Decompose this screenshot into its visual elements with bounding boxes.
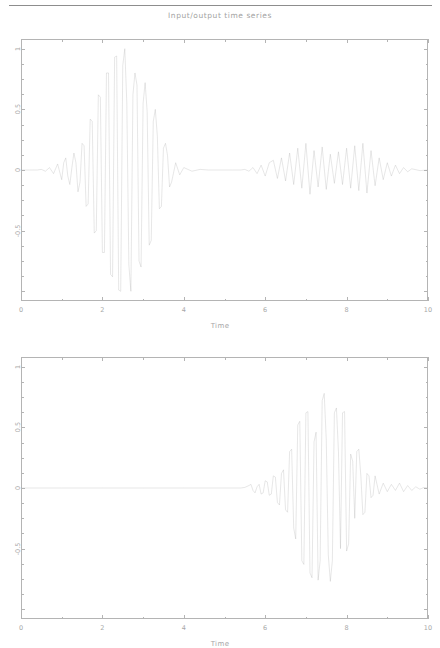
y-tick-major-right bbox=[424, 109, 428, 110]
x-tick-major bbox=[428, 615, 429, 619]
y-tick-minor bbox=[21, 579, 24, 580]
y-tick-label: 1 bbox=[14, 47, 22, 51]
y-tick-minor bbox=[21, 215, 24, 216]
y-tick-minor-right bbox=[426, 276, 429, 277]
x-tick-major bbox=[184, 297, 185, 301]
x-tick-minor-top bbox=[225, 357, 226, 360]
y-tick-label: -0.5 bbox=[14, 224, 22, 237]
x-tick-minor bbox=[225, 617, 226, 620]
y-tick-minor bbox=[21, 125, 24, 126]
x-tick-minor-top bbox=[306, 357, 307, 360]
y-tick-label: 0.5 bbox=[14, 104, 22, 114]
x-tick-major bbox=[428, 297, 429, 301]
y-tick-minor bbox=[21, 458, 24, 459]
x-tick-minor-top bbox=[387, 39, 388, 42]
y-tick-minor-right bbox=[426, 200, 429, 201]
y-tick-minor bbox=[21, 382, 24, 383]
x-tick-minor bbox=[225, 299, 226, 302]
y-tick-minor-right bbox=[426, 94, 429, 95]
y-tick-minor bbox=[21, 276, 24, 277]
y-tick-major-right bbox=[424, 49, 428, 50]
y-tick-major-right bbox=[424, 231, 428, 232]
input-panel: 024681010.50-0.5 Time bbox=[0, 30, 440, 330]
y-tick-minor-right bbox=[426, 140, 429, 141]
y-tick-minor-right bbox=[426, 155, 429, 156]
x-tick-label: 8 bbox=[345, 306, 349, 314]
output-trace bbox=[21, 393, 428, 581]
x-tick-label: 6 bbox=[263, 306, 267, 314]
y-tick-minor-right bbox=[426, 458, 429, 459]
y-tick-minor-right bbox=[426, 382, 429, 383]
y-tick-minor-right bbox=[426, 594, 429, 595]
x-tick-major-top bbox=[428, 39, 429, 43]
y-tick-minor bbox=[21, 94, 24, 95]
y-tick-major-right bbox=[424, 367, 428, 368]
y-tick-minor-right bbox=[426, 185, 429, 186]
x-tick-minor bbox=[143, 617, 144, 620]
y-tick-minor bbox=[21, 594, 24, 595]
y-tick-minor-right bbox=[426, 412, 429, 413]
x-tick-minor-top bbox=[62, 39, 63, 42]
x-tick-major bbox=[265, 615, 266, 619]
y-tick-major-right bbox=[424, 609, 428, 610]
x-tick-label: 2 bbox=[100, 306, 104, 314]
x-tick-major-top bbox=[102, 357, 103, 361]
x-tick-minor bbox=[387, 617, 388, 620]
y-tick-minor bbox=[21, 246, 24, 247]
y-tick-minor bbox=[21, 397, 24, 398]
y-tick-label: -0.5 bbox=[14, 542, 22, 555]
x-tick-minor-top bbox=[306, 39, 307, 42]
y-tick-minor-right bbox=[426, 64, 429, 65]
x-tick-major-top bbox=[184, 357, 185, 361]
y-tick-minor-right bbox=[426, 518, 429, 519]
y-tick-minor-right bbox=[426, 79, 429, 80]
x-tick-major-top bbox=[428, 357, 429, 361]
y-tick-minor bbox=[21, 533, 24, 534]
x-tick-minor-top bbox=[143, 39, 144, 42]
x-tick-label: 10 bbox=[424, 624, 432, 632]
x-tick-major bbox=[102, 297, 103, 301]
y-tick-minor bbox=[21, 412, 24, 413]
y-tick-major-right bbox=[424, 549, 428, 550]
output-panel: 024681010.50-0.5 Time bbox=[0, 348, 440, 648]
y-tick-minor bbox=[21, 261, 24, 262]
y-tick-minor bbox=[21, 185, 24, 186]
y-tick-minor bbox=[21, 200, 24, 201]
x-tick-major bbox=[265, 297, 266, 301]
x-tick-minor bbox=[62, 617, 63, 620]
y-tick-label: 0.5 bbox=[14, 422, 22, 432]
x-tick-label: 4 bbox=[182, 306, 186, 314]
x-tick-major bbox=[21, 615, 22, 619]
output-curve-layer bbox=[21, 357, 428, 619]
y-tick-major bbox=[21, 291, 25, 292]
output-xaxis-title: Time bbox=[0, 640, 440, 648]
x-tick-major bbox=[347, 297, 348, 301]
x-tick-major-top bbox=[265, 39, 266, 43]
x-tick-minor bbox=[306, 617, 307, 620]
y-tick-minor-right bbox=[426, 564, 429, 565]
x-tick-minor-top bbox=[387, 357, 388, 360]
y-tick-minor-right bbox=[426, 443, 429, 444]
x-tick-label: 0 bbox=[19, 306, 23, 314]
y-tick-minor bbox=[21, 503, 24, 504]
y-tick-minor-right bbox=[426, 473, 429, 474]
y-tick-minor bbox=[21, 140, 24, 141]
y-tick-minor-right bbox=[426, 215, 429, 216]
y-tick-minor-right bbox=[426, 397, 429, 398]
x-tick-label: 0 bbox=[19, 624, 23, 632]
y-tick-minor-right bbox=[426, 579, 429, 580]
y-tick-minor bbox=[21, 443, 24, 444]
x-tick-label: 2 bbox=[100, 624, 104, 632]
y-tick-minor-right bbox=[426, 533, 429, 534]
y-tick-major-right bbox=[424, 170, 428, 171]
y-tick-label: 0 bbox=[14, 168, 22, 172]
x-tick-label: 4 bbox=[182, 624, 186, 632]
y-tick-minor bbox=[21, 64, 24, 65]
x-tick-major-top bbox=[102, 39, 103, 43]
y-tick-major-right bbox=[424, 488, 428, 489]
x-tick-minor bbox=[62, 299, 63, 302]
x-tick-minor-top bbox=[62, 357, 63, 360]
input-curve-layer bbox=[21, 39, 428, 301]
y-tick-minor bbox=[21, 155, 24, 156]
x-tick-minor-top bbox=[143, 357, 144, 360]
